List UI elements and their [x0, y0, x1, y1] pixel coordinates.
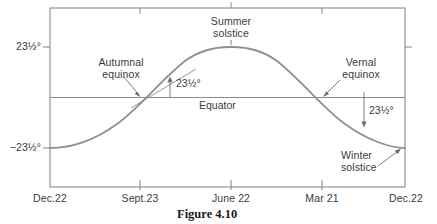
- angle-label-left: 23½°: [176, 77, 201, 89]
- equator-label: Equator: [199, 99, 236, 111]
- y-tick-label-lower: −23½°: [0, 141, 41, 153]
- vernal-equinox-label-line2: equinox: [325, 69, 397, 81]
- summer-solstice-label: Summer solstice: [191, 16, 271, 39]
- winter-solstice-leader: [378, 149, 401, 166]
- autumnal-equinox-leader: [124, 77, 141, 97]
- y-tick-label-upper: 23½°: [0, 40, 41, 52]
- x-tick-label-june22: June 22: [201, 192, 261, 204]
- autumnal-equinox-label-line2: equinox: [83, 69, 159, 81]
- figure-container: 23½° −23½° Dec.22 Sept.23 June 22 Mar 21…: [0, 0, 437, 224]
- x-tick-label-sept23: Sept.23: [110, 192, 170, 204]
- winter-solstice-label-line1: Winter: [341, 150, 377, 162]
- angle-left-leader: [167, 77, 172, 98]
- summer-solstice-label-line1: Summer: [191, 16, 271, 28]
- vernal-equinox-label: Vernal equinox: [325, 57, 397, 80]
- autumnal-equinox-label-line1: Autumnal: [83, 57, 159, 69]
- winter-solstice-label-line2: solstice: [341, 162, 377, 174]
- vernal-equinox-label-line1: Vernal: [325, 57, 397, 69]
- x-tick-label-dec22-right: Dec.22: [376, 192, 436, 204]
- figure-caption: Figure 4.10: [177, 207, 237, 222]
- angle-label-right: 23½°: [369, 104, 394, 116]
- x-tick-label-dec22-left: Dec.22: [20, 192, 80, 204]
- autumnal-equinox-label: Autumnal equinox: [83, 57, 159, 80]
- winter-solstice-label: Winter solstice: [341, 150, 377, 173]
- vernal-equinox-leader: [323, 80, 340, 97]
- summer-solstice-label-line2: solstice: [191, 28, 271, 40]
- x-tick-label-mar21: Mar 21: [292, 192, 352, 204]
